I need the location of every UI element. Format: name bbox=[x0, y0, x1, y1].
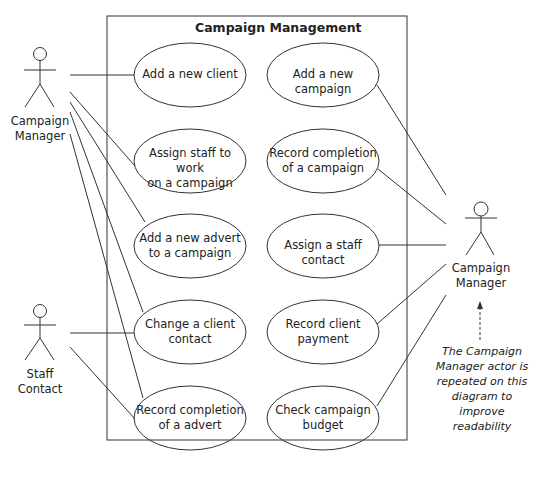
arrowhead-icon bbox=[477, 301, 483, 309]
associations-staff-contact bbox=[70, 333, 135, 419]
actor-figure-staff-contact bbox=[24, 305, 56, 361]
use-case-label: Add a new client bbox=[134, 67, 246, 82]
use-case-label: Add a new campaign bbox=[265, 67, 381, 97]
readability-note: The Campaign Manager actor is repeated o… bbox=[432, 344, 532, 434]
use-case-label: Record completion of a advert bbox=[134, 403, 246, 433]
use-case-label: Record completion of a campaign bbox=[267, 146, 379, 176]
actor-figure-campaign-manager-left bbox=[24, 48, 56, 108]
use-case-label: Change a client contact bbox=[134, 317, 246, 347]
actor-label-campaign-manager-left: Campaign Manager bbox=[3, 114, 77, 144]
use-case-label: Assign staff to work on a campaign bbox=[134, 146, 246, 191]
use-case-label: Assign a staff contact bbox=[262, 238, 384, 268]
use-case-label: Check campaign budget bbox=[267, 403, 379, 433]
actor-label-campaign-manager-right: Campaign Manager bbox=[444, 261, 518, 291]
actor-label-staff-contact: Staff Contact bbox=[3, 367, 77, 397]
actor-figure-campaign-manager-right bbox=[465, 202, 497, 255]
system-title: Campaign Management bbox=[195, 20, 362, 35]
use-case-label: Add a new advert to a campaign bbox=[134, 231, 246, 261]
use-case-label: Record client payment bbox=[267, 317, 379, 347]
